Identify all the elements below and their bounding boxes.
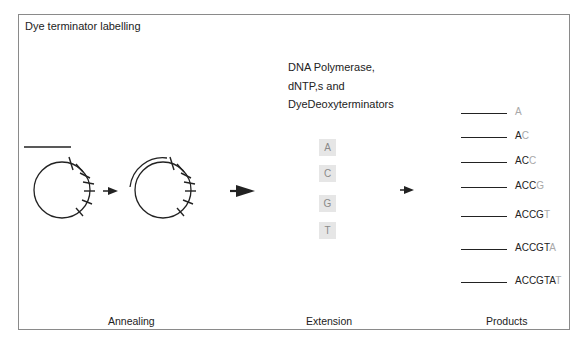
product-strand [461, 113, 507, 114]
product-strand [461, 162, 507, 163]
product-label: ACCGT [515, 209, 550, 220]
product-prefix: A [515, 130, 522, 141]
product-label: ACCGTA [515, 242, 556, 253]
reagent-line: DyeDeoxyterminators [288, 95, 394, 114]
nucleotide-box-a: A [319, 139, 336, 156]
arrow-right-icon [103, 187, 118, 195]
product-strand [461, 282, 507, 283]
reagent-line: dNTP,s and [288, 77, 394, 96]
product-prefix: ACC [515, 180, 536, 191]
step-label-annealing: Annealing [108, 315, 155, 327]
arrow-right-large-icon [230, 185, 255, 197]
step-label-products: Products [486, 315, 527, 327]
product-terminator: C [522, 130, 529, 141]
reagent-line: DNA Polymerase, [288, 58, 394, 77]
reagents-label: DNA Polymerase, dNTP,s and DyeDeoxytermi… [288, 58, 394, 114]
annealing-illustration [0, 0, 587, 345]
nucleotide-box-t: T [319, 222, 336, 239]
product-strand [461, 187, 507, 188]
product-label: AC [515, 130, 529, 141]
nucleotide-box-c: C [319, 165, 336, 182]
product-terminator: G [536, 180, 544, 191]
nucleotide-box-g: G [319, 195, 336, 212]
product-prefix: ACCG [515, 209, 544, 220]
arrow-right-small-icon [400, 186, 414, 194]
step-label-extension: Extension [306, 315, 352, 327]
product-terminator: T [544, 209, 550, 220]
annealed-circle-icon [130, 157, 196, 218]
product-prefix: AC [515, 155, 529, 166]
product-label: A [515, 106, 522, 117]
product-terminator: T [555, 275, 561, 286]
product-prefix: ACCGTA [515, 275, 555, 286]
product-label: ACC [515, 155, 536, 166]
product-strand [461, 216, 507, 217]
product-terminator: A [515, 106, 522, 117]
product-strand [461, 249, 507, 250]
product-prefix: ACCGT [515, 242, 549, 253]
product-strand [461, 137, 507, 138]
template-circle-icon [34, 157, 95, 218]
product-label: ACCGTAT [515, 275, 561, 286]
product-terminator: C [529, 155, 536, 166]
product-label: ACCG [515, 180, 544, 191]
product-terminator: A [549, 242, 556, 253]
